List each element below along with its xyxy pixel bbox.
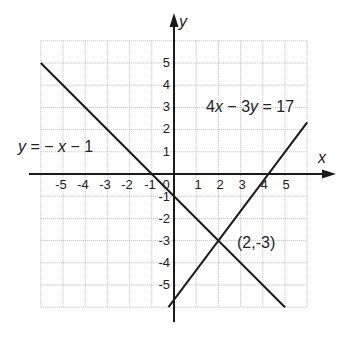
svg-text:-3: -3 <box>99 177 111 192</box>
svg-text:-5: -5 <box>158 277 170 292</box>
x-tick-labels: -5 -4 -3 -2 -1 0 1 2 3 4 5 <box>55 177 289 192</box>
svg-text:5: 5 <box>282 177 289 192</box>
equation-label-4x-3y-17: 4x − 3y = 17 <box>206 98 294 115</box>
y-axis-label: y <box>178 13 188 30</box>
svg-text:4: 4 <box>163 77 170 92</box>
coordinate-plane: x y -5 -4 -3 -2 -1 0 1 2 3 4 5 5 4 3 2 1… <box>0 0 347 338</box>
x-axis-label: x <box>317 149 327 166</box>
y-axis-arrow-icon <box>170 13 179 27</box>
svg-text:2: 2 <box>216 177 223 192</box>
svg-text:-5: -5 <box>55 177 67 192</box>
svg-text:-1: -1 <box>158 189 170 204</box>
line-4x-minus-3y-equals-17 <box>169 122 308 307</box>
svg-text:5: 5 <box>163 55 170 70</box>
svg-text:1: 1 <box>194 177 201 192</box>
equation-label-y-neg-x-1: y = − x − 1 <box>17 138 93 155</box>
svg-text:-2: -2 <box>121 177 133 192</box>
svg-text:3: 3 <box>238 177 245 192</box>
svg-text:-3: -3 <box>158 233 170 248</box>
svg-text:1: 1 <box>163 144 170 159</box>
x-axis-arrow-icon <box>322 170 336 179</box>
svg-text:-2: -2 <box>158 211 170 226</box>
svg-text:4: 4 <box>260 177 267 192</box>
svg-text:3: 3 <box>163 99 170 114</box>
svg-text:-4: -4 <box>77 177 89 192</box>
svg-text:2: 2 <box>163 121 170 136</box>
svg-text:-1: -1 <box>144 177 156 192</box>
intersection-label: (2,-3) <box>237 234 275 251</box>
svg-text:-4: -4 <box>158 255 170 270</box>
